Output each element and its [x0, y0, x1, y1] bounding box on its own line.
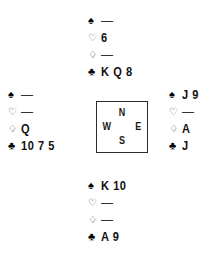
- hand-south-hearts: —: [101, 197, 113, 209]
- hand-south-spades: K 10: [101, 180, 127, 192]
- club-icon: ♣: [8, 140, 21, 151]
- hand-west-diamonds-row: ♢ Q: [8, 120, 58, 137]
- compass-label-east: E: [136, 122, 142, 132]
- spade-icon: ♠: [8, 89, 21, 100]
- diamond-icon: ♢: [8, 123, 21, 134]
- club-icon: ♣: [88, 231, 101, 242]
- spade-icon: ♠: [88, 15, 101, 26]
- hand-north-diamonds-row: ♢ —: [88, 46, 135, 63]
- hand-south-diamonds-row: ♢ —: [88, 211, 129, 228]
- hand-west-hearts: —: [21, 106, 33, 118]
- heart-icon: ♡: [88, 197, 101, 208]
- compass-box: N W E S: [96, 101, 148, 153]
- hand-north-hearts: 6: [101, 32, 108, 44]
- hand-north-diamonds: —: [101, 49, 113, 61]
- hand-west-spades-row: ♠ —: [8, 86, 58, 103]
- compass-label-south: S: [100, 136, 145, 146]
- heart-icon: ♡: [88, 32, 101, 43]
- hand-west-clubs: 10 7 5: [21, 140, 55, 152]
- hand-west-clubs-row: ♣ 10 7 5: [8, 137, 58, 154]
- heart-icon: ♡: [8, 106, 21, 117]
- hand-south: ♠ K 10 ♡ — ♢ — ♣ A 9: [88, 177, 129, 245]
- hand-east-clubs-row: ♣ J: [169, 137, 200, 154]
- heart-icon: ♡: [169, 106, 182, 117]
- hand-south-clubs: A 9: [101, 231, 119, 243]
- hand-east-clubs: J: [182, 140, 189, 152]
- spade-icon: ♠: [88, 180, 101, 191]
- diamond-icon: ♢: [88, 214, 101, 225]
- hand-east: ♠ J 9 ♡ — ♢ A ♣ J: [169, 86, 200, 154]
- hand-east-diamonds: A: [182, 123, 191, 135]
- hand-north-clubs: K Q 8: [101, 66, 133, 78]
- compass-label-north: N: [100, 108, 145, 118]
- diamond-icon: ♢: [88, 49, 101, 60]
- hand-west: ♠ — ♡ — ♢ Q ♣ 10 7 5: [8, 86, 58, 154]
- hand-east-hearts-row: ♡ —: [169, 103, 200, 120]
- club-icon: ♣: [169, 140, 182, 151]
- hand-north-spades-row: ♠ —: [88, 12, 135, 29]
- hand-south-diamonds: —: [101, 214, 113, 226]
- hand-west-hearts-row: ♡ —: [8, 103, 58, 120]
- hand-north-clubs-row: ♣ K Q 8: [88, 63, 135, 80]
- hand-north-hearts-row: ♡ 6: [88, 29, 135, 46]
- hand-south-hearts-row: ♡ —: [88, 194, 129, 211]
- hand-north: ♠ — ♡ 6 ♢ — ♣ K Q 8: [88, 12, 135, 80]
- hand-west-diamonds: Q: [21, 123, 30, 135]
- diamond-icon: ♢: [169, 123, 182, 134]
- hand-east-diamonds-row: ♢ A: [169, 120, 200, 137]
- hand-south-clubs-row: ♣ A 9: [88, 228, 129, 245]
- bridge-deal-diagram: ♠ — ♡ 6 ♢ — ♣ K Q 8 ♠ — ♡ — ♢ Q ♣: [0, 0, 212, 257]
- spade-icon: ♠: [169, 89, 182, 100]
- club-icon: ♣: [88, 66, 101, 77]
- hand-west-spades: —: [21, 89, 33, 101]
- hand-east-hearts: —: [182, 106, 194, 118]
- hand-north-spades: —: [101, 15, 113, 27]
- hand-east-spades: J 9: [182, 89, 199, 101]
- hand-south-spades-row: ♠ K 10: [88, 177, 129, 194]
- hand-east-spades-row: ♠ J 9: [169, 86, 200, 103]
- compass-label-west: W: [102, 122, 111, 132]
